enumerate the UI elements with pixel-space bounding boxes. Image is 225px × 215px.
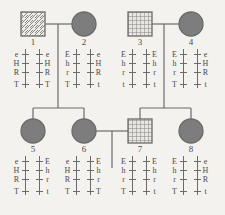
locus-row-T: Tt bbox=[117, 184, 163, 196]
locus-row-E: eE bbox=[61, 157, 107, 166]
locus-row-H: hH bbox=[61, 59, 107, 68]
individual-symbol-2[interactable] bbox=[72, 12, 96, 36]
pedigree-chart: 1 2 3 4 5 6 7 8 ee HH RR TT Ee hH rR Tt … bbox=[0, 0, 225, 215]
genotype-block-7: EE hh rr Tt bbox=[113, 157, 167, 196]
locus-row-T: Tt bbox=[168, 184, 214, 196]
individual-label-4: 4 bbox=[171, 37, 211, 47]
locus-row-R: rR bbox=[61, 68, 107, 77]
genotype-block-1: ee HH RR TT bbox=[6, 50, 60, 89]
individual-label-7: 7 bbox=[120, 144, 160, 154]
individual-label-8: 8 bbox=[171, 144, 211, 154]
genotype-block-2: Ee hH rR Tt bbox=[57, 50, 111, 89]
locus-row-H: hh bbox=[117, 166, 163, 175]
individual-label-1: 1 bbox=[13, 37, 53, 47]
locus-row-E: ee bbox=[10, 50, 56, 59]
locus-row-H: hh bbox=[117, 59, 163, 68]
genotype-block-6: eE Hh Rr TT bbox=[57, 157, 111, 196]
locus-row-E: Ee bbox=[61, 50, 107, 59]
locus-row-H: Hh bbox=[61, 166, 107, 175]
locus-row-H: hH bbox=[168, 59, 214, 68]
locus-row-E: Ee bbox=[168, 157, 214, 166]
genotype-block-5: eE Hh Rr Tt bbox=[6, 157, 60, 196]
locus-row-T: tt bbox=[117, 77, 163, 89]
individual-label-3: 3 bbox=[120, 37, 160, 47]
individual-label-6: 6 bbox=[64, 144, 104, 154]
individual-symbol-8[interactable] bbox=[179, 119, 203, 143]
locus-row-R: rR bbox=[168, 175, 214, 184]
genotype-block-3: EE hh rr tt bbox=[113, 50, 167, 89]
locus-row-E: EE bbox=[117, 50, 163, 59]
individual-symbol-4[interactable] bbox=[179, 12, 203, 36]
locus-row-R: rr bbox=[117, 175, 163, 184]
individual-label-5: 5 bbox=[13, 144, 53, 154]
locus-row-E: Ee bbox=[168, 50, 214, 59]
individual-label-2: 2 bbox=[64, 37, 104, 47]
locus-row-T: TT bbox=[61, 184, 107, 196]
locus-row-T: Tt bbox=[61, 77, 107, 89]
individual-symbol-3[interactable] bbox=[128, 12, 152, 36]
locus-row-T: Tt bbox=[168, 77, 214, 89]
locus-row-E: eE bbox=[10, 157, 56, 166]
locus-row-H: hH bbox=[168, 166, 214, 175]
locus-row-T: Tt bbox=[10, 184, 56, 196]
locus-row-R: rr bbox=[117, 68, 163, 77]
locus-row-R: rR bbox=[168, 68, 214, 77]
locus-row-T: TT bbox=[10, 77, 56, 89]
sibship-line-5-6 bbox=[33, 108, 84, 119]
genotype-block-8: Ee hH rR Tt bbox=[164, 157, 218, 196]
locus-row-R: Rr bbox=[61, 175, 107, 184]
individual-symbol-7[interactable] bbox=[128, 119, 152, 143]
locus-row-R: RR bbox=[10, 68, 56, 77]
individual-symbol-1[interactable] bbox=[21, 12, 45, 36]
genotype-block-4: Ee hH rR Tt bbox=[164, 50, 218, 89]
individual-symbol-5[interactable] bbox=[21, 119, 45, 143]
locus-row-R: Rr bbox=[10, 175, 56, 184]
locus-row-H: Hh bbox=[10, 166, 56, 175]
individual-symbol-6[interactable] bbox=[72, 119, 96, 143]
locus-row-H: HH bbox=[10, 59, 56, 68]
sibship-line-7-8 bbox=[140, 108, 191, 119]
locus-row-E: EE bbox=[117, 157, 163, 166]
